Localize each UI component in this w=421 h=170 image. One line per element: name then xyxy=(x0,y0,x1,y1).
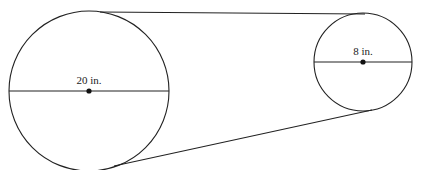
top-belt-line xyxy=(100,12,365,14)
pulley-diagram: 20 in. 8 in. xyxy=(0,0,421,170)
bottom-belt-line xyxy=(114,110,372,166)
large-circle-center-dot xyxy=(86,88,91,93)
small-circle-label: 8 in. xyxy=(353,45,373,57)
large-circle-label: 20 in. xyxy=(76,74,101,86)
small-circle-center-dot xyxy=(360,59,365,64)
